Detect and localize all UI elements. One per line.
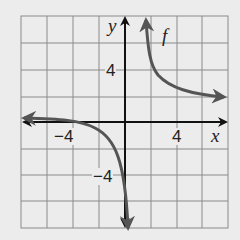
x-axis-label: x [210,126,220,145]
upper-branch [146,20,224,97]
function-label: f [161,26,168,45]
x-tick-neg4: −4 [53,128,74,145]
graph: y x f −4 4 4 −4 [0,0,240,240]
y-tick-pos4: 4 [105,62,116,79]
y-tick-neg4: −4 [92,168,113,185]
y-axis-label: y [107,16,117,35]
x-tick-pos4: 4 [171,128,182,145]
graph-svg [0,0,240,240]
